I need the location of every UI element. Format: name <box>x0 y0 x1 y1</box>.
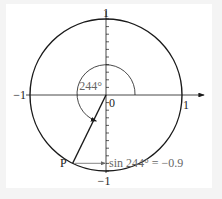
y-label-top: 1 <box>103 6 109 20</box>
y-label-bottom: −1 <box>98 174 111 188</box>
radius-to-point-p <box>73 95 106 163</box>
x-label-right: 1 <box>183 98 189 112</box>
angle-label: 244° <box>79 79 102 93</box>
point-p-label: P <box>60 156 67 170</box>
origin-label: 0 <box>109 96 115 110</box>
sine-equation-label: sin 244° = −0.9 <box>109 156 183 170</box>
x-label-left: −1 <box>13 88 26 102</box>
unit-circle-diagram: 1 −1 −1 1 0 244° P sin 244° = −0.9 <box>0 0 222 199</box>
